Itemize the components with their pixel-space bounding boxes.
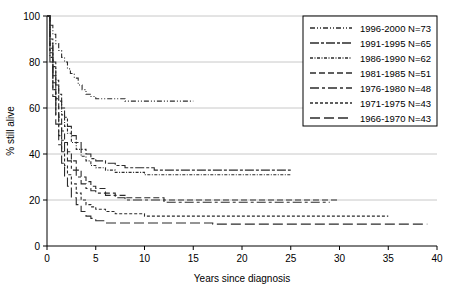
chart-canvas: 020406080100 0510152025303540 % still al… [0,0,451,288]
y-tick-label-80: 80 [29,57,41,68]
y-tick-label-20: 20 [29,195,41,206]
y-tick-label-40: 40 [29,149,41,160]
x-tick-label-20: 20 [236,253,248,264]
x-tick-label-10: 10 [139,253,151,264]
legend-label-6: 1966-1970 N=43 [360,113,431,124]
series-line-0 [47,16,193,101]
y-axis-ticks: 020406080100 [23,11,47,252]
legend: 1996-2000 N=731991-1995 N=651986-1990 N=… [303,16,437,126]
x-axis-ticks: 0510152025303540 [44,246,443,264]
legend-label-4: 1976-1980 N=48 [360,83,431,94]
x-tick-label-25: 25 [285,253,297,264]
legend-label-2: 1986-1990 N=62 [360,53,431,64]
y-tick-label-100: 100 [23,11,40,22]
x-tick-label-0: 0 [44,253,50,264]
legend-label-3: 1981-1985 N=51 [360,68,431,79]
legend-label-1: 1991-1995 N=65 [360,38,431,49]
series-line-2 [47,16,291,175]
legend-label-5: 1971-1975 N=43 [360,98,431,109]
x-tick-label-35: 35 [383,253,395,264]
y-tick-label-0: 0 [34,241,40,252]
x-tick-label-5: 5 [93,253,99,264]
x-axis-title: Years since diagnosis [194,273,290,284]
x-tick-label-40: 40 [431,253,443,264]
y-axis-title: % still alive [5,106,16,156]
y-tick-label-60: 60 [29,103,41,114]
series-line-1 [47,16,291,170]
x-tick-label-30: 30 [334,253,346,264]
survival-chart: 020406080100 0510152025303540 % still al… [0,0,451,288]
x-tick-label-15: 15 [188,253,200,264]
legend-label-0: 1996-2000 N=73 [360,23,431,34]
